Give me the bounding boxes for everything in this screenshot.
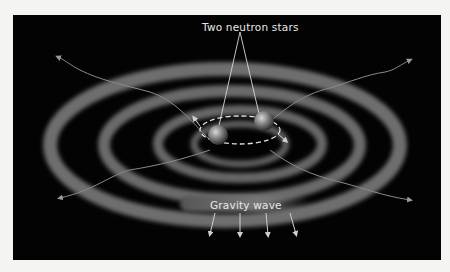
neutron-star-1 (208, 125, 228, 145)
label-gravity-wave: Gravity wave (210, 199, 282, 211)
label-two-neutron-stars: Two neutron stars (202, 21, 299, 33)
gravity-wave-diagram (0, 0, 450, 272)
neutron-star-2 (254, 111, 274, 131)
